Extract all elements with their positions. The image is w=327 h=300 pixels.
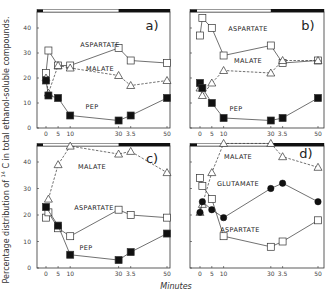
panel-c: 0510303.550010203040c)MALATEASPARTATEPEP [23, 142, 171, 277]
x-tick-label: 30 [115, 130, 123, 137]
series-label-malate: MALATE [78, 163, 106, 171]
data-point-aspartate [164, 60, 171, 67]
y-tick-label: 40 [23, 158, 31, 165]
data-point-pep [220, 115, 227, 122]
x-tick-label: 5 [56, 270, 60, 277]
y-tick-label: 10 [23, 238, 31, 245]
data-point-pep [55, 95, 62, 102]
data-point-pep [43, 204, 50, 211]
series-label-pep: PEP [85, 103, 98, 111]
dark-period-bar [190, 10, 197, 13]
data-point-pep [115, 257, 122, 264]
x-tick-label: 0 [44, 270, 48, 277]
series-label-pep: PEP [79, 244, 92, 252]
data-point-aspartate [199, 182, 206, 189]
data-point-pep [43, 77, 50, 84]
x-tick-label: 30 [115, 270, 123, 277]
panel-label: b) [301, 18, 314, 33]
data-point-aspartate [220, 52, 227, 59]
data-point-aspartate [279, 238, 286, 245]
series-pep: PEP [43, 77, 171, 124]
x-tick-label: 10 [66, 270, 74, 277]
panel-d: 0510303.550d)MALATEGLUTAMATEASPARTATE [190, 139, 324, 277]
data-point-glutamate [220, 214, 226, 220]
data-point-aspartate [197, 32, 204, 39]
dark-period-bar [271, 9, 324, 12]
series-label-aspartate: ASPARTATE [80, 41, 120, 49]
x-tick-label: 0 [44, 130, 48, 137]
data-point-aspartate [115, 206, 122, 213]
panel-a: 0510303.550010203040a)ASPARTATEMALATEPEP [23, 9, 171, 137]
data-point-aspartate [197, 174, 204, 181]
data-point-aspartate [45, 47, 52, 54]
data-point-pep [279, 115, 286, 122]
x-tick-label: 50 [163, 270, 171, 277]
x-tick-label: 10 [220, 270, 228, 277]
series-line-pep [46, 81, 167, 121]
series-malate: MALATE [42, 62, 171, 97]
x-tick-label: 5 [210, 130, 214, 137]
series-label-malate: MALATE [86, 65, 114, 73]
y-tick-label: 10 [23, 99, 31, 106]
series-line-glutamate [200, 183, 318, 217]
data-point-glutamate [199, 199, 205, 205]
x-tick-label: 5 [210, 270, 214, 277]
x-tick-label: 3.5 [126, 270, 136, 277]
x-tick-label: 10 [220, 130, 228, 137]
y-tick-label: 40 [23, 24, 31, 31]
x-tick-label: 3.5 [126, 130, 136, 137]
data-point-malate [44, 195, 52, 202]
data-point-malate [115, 72, 123, 79]
data-point-aspartate [199, 15, 206, 22]
data-point-aspartate [267, 42, 274, 49]
data-point-malate [208, 169, 216, 176]
data-point-pep [67, 251, 74, 258]
series-label-glutamate: GLUTAMATE [217, 180, 259, 188]
data-point-malate [127, 147, 135, 154]
series-label-aspartate: ASPARTATE [228, 25, 268, 33]
y-tick-label: 30 [23, 185, 31, 192]
data-point-malate [208, 79, 216, 86]
data-point-pep [45, 92, 52, 99]
series-line-malate [200, 61, 318, 96]
x-tick-label: 50 [314, 270, 322, 277]
y-tick-label: 20 [23, 74, 31, 81]
data-point-glutamate [197, 209, 203, 215]
series-label-pep: PEP [229, 105, 242, 113]
series-line-aspartate [200, 178, 318, 247]
panel-label: c) [146, 151, 158, 166]
dark-period-bar [190, 144, 197, 147]
data-point-pep [55, 222, 62, 229]
data-point-pep [164, 230, 171, 237]
data-point-pep [127, 249, 134, 256]
data-point-glutamate [268, 185, 274, 191]
x-tick-label: 0 [198, 130, 202, 137]
data-point-pep [67, 112, 74, 119]
x-tick-label: 5 [56, 130, 60, 137]
series-label-aspartate: ASPARTATE [220, 226, 260, 234]
panel-b: 0510303.550b)ASPARTATEMALATEPEP [190, 9, 324, 137]
dark-period-bar [119, 143, 170, 146]
y-axis-title-superscript: 14 [0, 171, 6, 177]
x-tick-label: 10 [66, 130, 74, 137]
series-line-aspartate [46, 210, 167, 237]
dark-period-bar [271, 143, 324, 146]
data-point-malate [267, 139, 275, 146]
data-point-malate [54, 161, 62, 168]
y-axis-title-text: Percentage distribution of 14 C in total… [0, 17, 11, 284]
data-point-malate [314, 163, 322, 170]
y-axis-title: Percentage distribution of 14 C in total… [0, 17, 11, 284]
x-tick-label: 30 [267, 130, 275, 137]
y-tick-label: 30 [23, 49, 31, 56]
series-line-pep [200, 83, 318, 121]
data-point-aspartate [67, 233, 74, 240]
data-point-pep [164, 95, 171, 102]
x-tick-label: 50 [163, 130, 171, 137]
data-point-aspartate [267, 243, 274, 250]
data-point-aspartate [315, 217, 322, 224]
data-point-malate [220, 139, 228, 146]
data-point-aspartate [208, 25, 215, 32]
data-point-pep [199, 85, 206, 92]
data-point-pep [315, 95, 322, 102]
data-point-glutamate [279, 180, 285, 186]
